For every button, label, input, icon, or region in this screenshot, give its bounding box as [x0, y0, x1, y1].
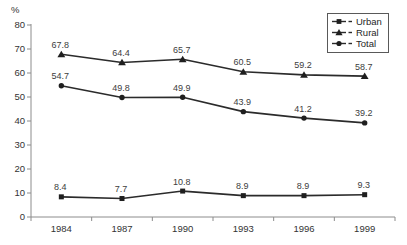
y-tick-label: 30 [14, 139, 25, 150]
y-tick-label: 0 [20, 211, 25, 222]
data-point-urban [180, 189, 185, 194]
data-label: 49.8 [112, 83, 130, 93]
data-label: 60.5 [234, 57, 252, 67]
legend-label-urban: Urban [356, 16, 382, 27]
data-label: 59.2 [294, 60, 312, 70]
data-label: 8.4 [54, 182, 67, 192]
legend-label-total: Total [356, 38, 376, 49]
x-tick-label: 1990 [172, 223, 193, 234]
data-point-total [241, 109, 246, 114]
y-tick-label: 10 [14, 187, 25, 198]
data-point-urban [362, 192, 367, 197]
data-label: 54.7 [52, 71, 70, 81]
y-tick-label: 20 [14, 163, 25, 174]
legend-label-rural: Rural [356, 27, 379, 38]
data-label: 43.9 [234, 97, 252, 107]
data-point-urban [59, 194, 64, 199]
urban-line-marker-icon [332, 17, 353, 26]
data-point-total [362, 120, 367, 125]
data-label: 64.4 [112, 48, 130, 58]
data-point-urban [241, 193, 246, 198]
rural-line-marker-icon [332, 28, 353, 37]
series-line-total [61, 86, 364, 123]
series-line-urban [61, 191, 364, 198]
legend-item-total: Total [332, 38, 382, 49]
x-tick-label: 1993 [233, 223, 254, 234]
y-tick-label: 80 [14, 19, 25, 30]
y-tick-label: 60 [14, 67, 25, 78]
data-label: 7.7 [115, 184, 128, 194]
data-label: 65.7 [173, 45, 191, 55]
x-tick-label: 1984 [51, 223, 72, 234]
y-axis-unit-label: % [11, 4, 20, 15]
data-label: 9.3 [357, 180, 370, 190]
legend-item-urban: Urban [332, 16, 382, 27]
data-point-total [180, 95, 185, 100]
data-point-total [301, 115, 306, 120]
data-label: 41.2 [294, 104, 312, 114]
data-label: 58.7 [355, 62, 373, 72]
series-line-rural [61, 54, 364, 76]
total-line-marker-icon [332, 39, 353, 48]
x-tick-label: 1999 [354, 223, 375, 234]
data-point-total [119, 95, 124, 100]
y-tick-label: 50 [14, 91, 25, 102]
data-label: 67.8 [52, 40, 70, 50]
data-point-urban [120, 196, 125, 201]
data-label: 49.9 [173, 83, 191, 93]
data-label: 10.8 [173, 177, 191, 187]
x-tick-label: 1996 [293, 223, 314, 234]
data-label: 39.2 [355, 108, 373, 118]
data-label: 8.9 [297, 181, 310, 191]
y-tick-label: 40 [14, 115, 25, 126]
data-point-urban [302, 193, 307, 198]
data-label: 8.9 [236, 181, 249, 191]
y-tick-label: 70 [14, 43, 25, 54]
legend-item-rural: Rural [332, 27, 382, 38]
legend: Urban Rural Total [327, 13, 389, 53]
line-chart: 01020304050607080%1984198719901993199619… [0, 0, 407, 245]
data-point-total [59, 83, 64, 88]
x-tick-label: 1987 [111, 223, 132, 234]
